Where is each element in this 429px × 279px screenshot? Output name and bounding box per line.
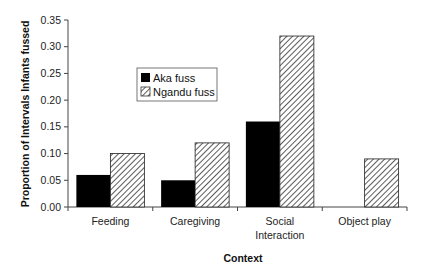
bar-ngandu-fuss-feeding [110, 154, 144, 207]
legend: Aka fuss Ngandu fuss [137, 68, 217, 101]
y-tick-label: 0.15 [41, 120, 62, 132]
x-category-label: Social [266, 215, 295, 227]
bar-aka-fuss-caregiving [161, 180, 195, 207]
bar-aka-fuss-feeding [76, 175, 110, 207]
bar-ngandu-fuss-caregiving [195, 143, 229, 207]
x-category-label: Feeding [91, 215, 129, 227]
y-tick-label: 0.25 [41, 67, 62, 79]
y-tick-label: 0.05 [41, 174, 62, 186]
x-axis-title: Context [223, 252, 263, 264]
y-axis-title: Proportion of Intervals Infants fussed [19, 21, 31, 208]
legend-label-ngandu: Ngandu fuss [153, 86, 215, 98]
y-tick-label: 0.35 [41, 14, 62, 26]
x-category-label: Interaction [255, 229, 304, 241]
category-labels: FeedingCaregivingSocialInteractionObject… [91, 215, 391, 241]
bar-aka-fuss-social-interaction [246, 122, 280, 207]
bar-chart: 0.000.050.100.150.200.250.300.35 Feeding… [0, 0, 429, 279]
legend-label-aka: Aka fuss [153, 72, 196, 84]
y-tick-label: 0.30 [41, 40, 62, 52]
legend-swatch-ngandu [141, 87, 150, 96]
y-tick-label: 0.00 [41, 201, 62, 213]
x-category-label: Object play [338, 215, 391, 227]
bar-ngandu-fuss-object-play [365, 159, 399, 207]
legend-swatch-aka [141, 73, 150, 82]
x-axis [68, 207, 407, 211]
bar-ngandu-fuss-social-interaction [280, 36, 314, 207]
y-tick-label: 0.10 [41, 147, 62, 159]
y-axis: 0.000.050.100.150.200.250.300.35 [41, 14, 68, 213]
x-category-label: Caregiving [170, 215, 220, 227]
bars [76, 36, 398, 207]
y-tick-label: 0.20 [41, 94, 62, 106]
